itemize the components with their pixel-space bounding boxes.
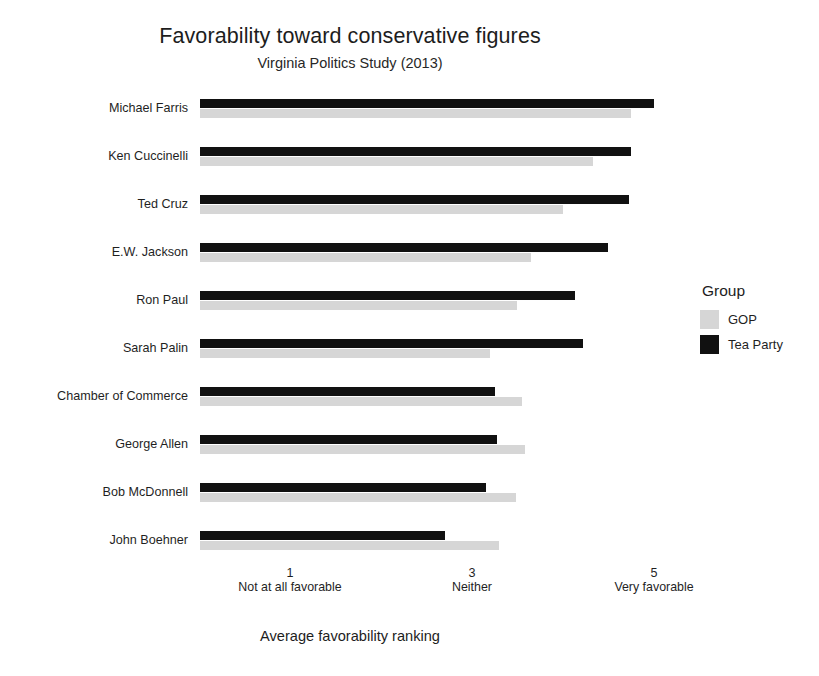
x-tick-caption: Not at all favorable [238, 580, 341, 595]
bar-gop [200, 109, 631, 118]
legend-item[interactable]: Tea Party [700, 335, 819, 354]
category-label: Ted Cruz [138, 198, 188, 211]
x-tick-number: 1 [238, 566, 341, 580]
bar-tea-party [200, 435, 497, 444]
bar-tea-party [200, 387, 495, 396]
legend-swatch-icon [700, 335, 719, 354]
category-label: Ken Cuccinelli [108, 150, 188, 163]
category-label: Chamber of Commerce [57, 390, 188, 403]
legend-swatch-icon [700, 310, 719, 329]
category-label: Bob McDonnell [103, 486, 188, 499]
category-label: Ron Paul [136, 294, 188, 307]
x-axis-tick: 5Very favorable [614, 566, 693, 595]
bar-gop [200, 445, 525, 454]
bar-tea-party [200, 483, 486, 492]
bar-gop [200, 541, 499, 550]
category-label: Michael Farris [109, 102, 188, 115]
bar-tea-party [200, 195, 629, 204]
category-label: E.W. Jackson [112, 246, 188, 259]
x-tick-caption: Very favorable [614, 580, 693, 595]
bar-tea-party [200, 291, 575, 300]
bar-tea-party [200, 147, 631, 156]
x-axis-tick: 1Not at all favorable [238, 566, 341, 595]
plot-area: Michael FarrisKen CuccinelliTed CruzE.W.… [200, 92, 690, 560]
legend-label: Tea Party [728, 337, 783, 352]
bar-gop [200, 157, 593, 166]
bar-gop [200, 253, 531, 262]
category-label: John Boehner [110, 534, 188, 547]
x-tick-number: 5 [614, 566, 693, 580]
legend-item[interactable]: GOP [700, 310, 819, 329]
chart-title: Favorability toward conservative figures [0, 24, 700, 49]
legend: Group GOPTea Party [700, 282, 819, 360]
bar-gop [200, 301, 517, 310]
category-label: George Allen [115, 438, 188, 451]
chart-subtitle: Virginia Politics Study (2013) [0, 55, 700, 71]
legend-items: GOPTea Party [700, 310, 819, 354]
x-axis-label: Average favorability ranking [0, 628, 700, 644]
bar-tea-party [200, 243, 608, 252]
bar-tea-party [200, 99, 654, 108]
category-label: Sarah Palin [123, 342, 188, 355]
x-axis-tick: 3Neither [452, 566, 492, 595]
bar-gop [200, 493, 516, 502]
bar-gop [200, 205, 563, 214]
x-tick-caption: Neither [452, 580, 492, 595]
bar-tea-party [200, 339, 583, 348]
bar-gop [200, 349, 490, 358]
favorability-bar-chart: Favorability toward conservative figures… [0, 0, 819, 676]
legend-label: GOP [728, 312, 757, 327]
x-tick-number: 3 [452, 566, 492, 580]
bar-tea-party [200, 531, 445, 540]
bar-gop [200, 397, 522, 406]
legend-title: Group [702, 282, 819, 300]
